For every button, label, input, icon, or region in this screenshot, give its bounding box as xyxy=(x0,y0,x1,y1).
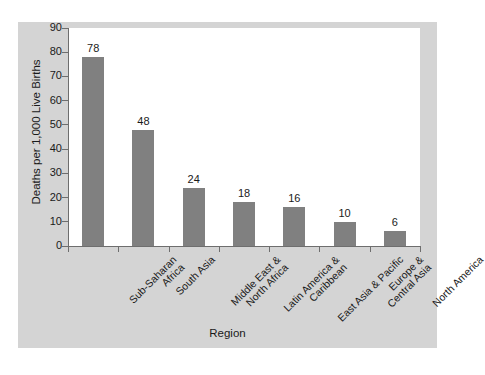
bar xyxy=(283,207,305,246)
y-axis-tick-label: 20 xyxy=(36,192,62,203)
y-axis-tick-label: 90 xyxy=(36,22,62,33)
y-axis-tick xyxy=(62,149,68,150)
bar-value-label: 24 xyxy=(174,174,214,185)
x-axis-tick xyxy=(219,247,220,252)
y-axis-tick xyxy=(62,221,68,222)
y-axis-tick-label: 0 xyxy=(36,240,62,251)
x-axis-category-label: North America xyxy=(430,254,485,309)
y-axis-tick xyxy=(62,100,68,101)
y-axis-tick xyxy=(62,173,68,174)
x-axis-tick xyxy=(319,247,320,252)
x-axis-category-label: South Asia xyxy=(174,254,217,297)
x-axis-category-line: North America xyxy=(430,254,485,309)
y-axis-tick-label: 10 xyxy=(36,216,62,227)
bar xyxy=(183,188,205,246)
bar-value-label: 16 xyxy=(274,193,314,204)
y-axis-tick xyxy=(62,76,68,77)
x-axis-category-line: South Asia xyxy=(174,254,217,297)
x-axis-tick xyxy=(169,247,170,252)
y-axis-tick xyxy=(62,197,68,198)
y-axis-tick-label: 80 xyxy=(36,46,62,57)
bar-value-label: 48 xyxy=(123,116,163,127)
y-axis-tick xyxy=(62,28,68,29)
x-axis-tick xyxy=(269,247,270,252)
x-axis-line xyxy=(68,246,421,247)
bar xyxy=(334,222,356,246)
bar xyxy=(384,231,406,246)
bar-value-label: 18 xyxy=(224,188,264,199)
x-axis-tick xyxy=(420,247,421,252)
y-axis-tick-label: 60 xyxy=(36,95,62,106)
y-axis-tick-label: 30 xyxy=(36,167,62,178)
bar-value-label: 78 xyxy=(73,43,113,54)
bar-value-label: 10 xyxy=(325,208,365,219)
x-axis-tick xyxy=(68,247,69,252)
bar xyxy=(82,57,104,246)
x-axis-tick xyxy=(370,247,371,252)
x-axis-category-label: Europe &Central Asia xyxy=(377,254,433,310)
x-axis-tick xyxy=(118,247,119,252)
y-axis-tick-label: 70 xyxy=(36,70,62,81)
bar xyxy=(132,130,154,246)
x-axis-title: Region xyxy=(18,327,437,339)
bar-value-label: 6 xyxy=(375,217,415,228)
y-axis-tick xyxy=(62,52,68,53)
y-axis-tick xyxy=(62,124,68,125)
chart-panel: Deaths per 1,000 Live Births 01020304050… xyxy=(18,22,437,348)
y-axis-line xyxy=(68,28,69,247)
y-axis-tick-label: 40 xyxy=(36,143,62,154)
y-axis-tick-label: 50 xyxy=(36,119,62,130)
bar xyxy=(233,202,255,246)
